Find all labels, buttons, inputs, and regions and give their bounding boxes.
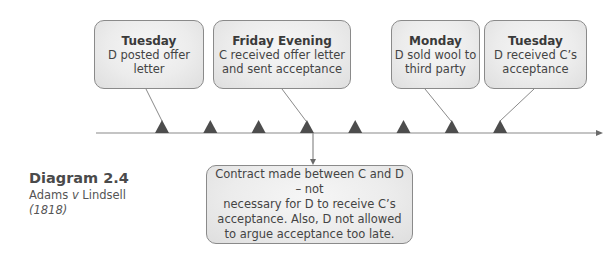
pointer-event-3 bbox=[425, 89, 451, 121]
timeline-marker bbox=[348, 120, 362, 133]
pointer-event-4 bbox=[500, 89, 534, 121]
event-description: D posted offer letter bbox=[108, 48, 190, 76]
event-title: Monday bbox=[409, 34, 462, 48]
timeline-marker bbox=[203, 120, 217, 133]
case-name-part: Adams bbox=[29, 188, 72, 202]
event-box-3: Monday D sold wool to third party bbox=[391, 20, 480, 89]
event-title: Tuesday bbox=[122, 34, 177, 48]
event-title: Tuesday bbox=[508, 34, 563, 48]
event-box-1: Tuesday D posted offer letter bbox=[94, 20, 204, 89]
pointer-event-1 bbox=[146, 89, 162, 121]
case-name-part: Lindsell bbox=[79, 188, 126, 202]
pointer-event-2 bbox=[282, 89, 306, 121]
case-year: (1818) bbox=[29, 203, 129, 217]
timeline-marker bbox=[300, 120, 314, 133]
case-name: Adams v Lindsell bbox=[29, 188, 129, 203]
diagram-heading: Diagram 2.4 bbox=[29, 170, 129, 186]
event-title: Friday Evening bbox=[232, 34, 332, 48]
event-box-4: Tuesday D received C’s acceptance bbox=[484, 20, 587, 89]
diagram-caption: Diagram 2.4 Adams v Lindsell (1818) bbox=[29, 170, 129, 217]
event-description: D received C’s acceptance bbox=[494, 48, 577, 76]
result-box: Contract made between C and D – not nece… bbox=[206, 165, 413, 244]
timeline-marker bbox=[445, 120, 459, 133]
timeline-marker bbox=[252, 120, 266, 133]
case-name-versus: v bbox=[72, 188, 79, 202]
timeline-marker bbox=[155, 120, 169, 133]
event-box-2: Friday Evening C received offer letter a… bbox=[213, 20, 351, 89]
event-description: C received offer letter and sent accepta… bbox=[219, 48, 345, 76]
timeline-marker bbox=[397, 120, 411, 133]
timeline-marker bbox=[493, 120, 507, 133]
timeline-arrowhead bbox=[596, 130, 603, 136]
result-text: Contract made between C and D – not nece… bbox=[215, 167, 404, 242]
event-description: D sold wool to third party bbox=[395, 48, 477, 76]
